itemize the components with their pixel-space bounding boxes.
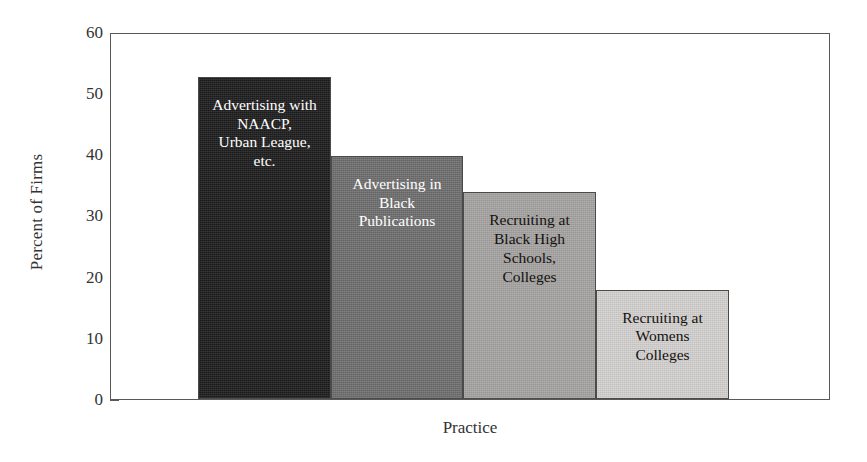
bar-advertising-naacp[interactable]: Advertising with NAACP, Urban League, et… <box>198 77 331 399</box>
bar-label-3: Recruiting at Black High Schools, Colleg… <box>468 211 591 287</box>
y-tick-label-60: 60 <box>63 23 103 43</box>
y-tick-label-0: 0 <box>63 390 103 410</box>
y-tick-label-20: 20 <box>63 268 103 288</box>
y-tick-mark-0 <box>110 400 119 401</box>
y-tick-label-10: 10 <box>63 329 103 349</box>
bar-advertising-black-publications[interactable]: Advertising in Black Publications <box>331 156 463 399</box>
bar-recruiting-black-schools[interactable]: Recruiting at Black High Schools, Colleg… <box>463 192 596 399</box>
bar-recruiting-womens-colleges[interactable]: Recruiting at Womens Colleges <box>596 290 729 400</box>
y-tick-label-50: 50 <box>63 84 103 104</box>
bar-chart-figure: Percent of Firms 60 50 40 30 20 10 0 <box>0 0 867 462</box>
plot-area: Advertising with NAACP, Urban League, et… <box>110 33 830 400</box>
y-tick-label-30: 30 <box>63 206 103 226</box>
x-axis-title: Practice <box>110 418 830 438</box>
bar-label-1: Advertising with NAACP, Urban League, et… <box>203 96 326 172</box>
bar-label-4: Recruiting at Womens Colleges <box>601 309 724 366</box>
y-tick-label-40: 40 <box>63 145 103 165</box>
bar-label-2: Advertising in Black Publications <box>336 175 458 232</box>
